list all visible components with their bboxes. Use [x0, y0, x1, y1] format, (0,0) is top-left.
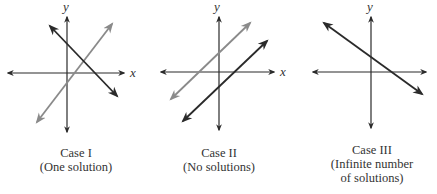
case-2-graph: y x [161, 0, 286, 130]
case-2-title: Case II [149, 146, 289, 160]
case-2-light-line [171, 23, 250, 99]
case-1-dark-line [50, 26, 117, 96]
case-3-graph: y [313, 0, 426, 128]
case-1-y-label: y [61, 0, 69, 14]
case-2-x-label: x [279, 64, 286, 79]
case-2-dark-line [183, 41, 267, 121]
case-3-description-line1: (Infinite number [302, 157, 437, 171]
case-1-x-label: x [129, 65, 136, 80]
case-1-caption: Case I (One solution) [6, 146, 146, 174]
case-2-y-label: y [212, 0, 220, 14]
case-1-description: (One solution) [6, 160, 146, 174]
case-3-caption: Case III (Infinite number of solutions) [302, 143, 437, 185]
case-3-y-label: y [365, 0, 373, 14]
case-3-coincident-line [324, 23, 422, 94]
case-1-title: Case I [6, 146, 146, 160]
case-2-caption: Case II (No solutions) [149, 146, 289, 174]
case-3-title: Case III [302, 143, 437, 157]
case-3-description-line2: of solutions) [302, 171, 437, 185]
case-1-graph: y x [8, 0, 136, 132]
case-2-description: (No solutions) [149, 160, 289, 174]
